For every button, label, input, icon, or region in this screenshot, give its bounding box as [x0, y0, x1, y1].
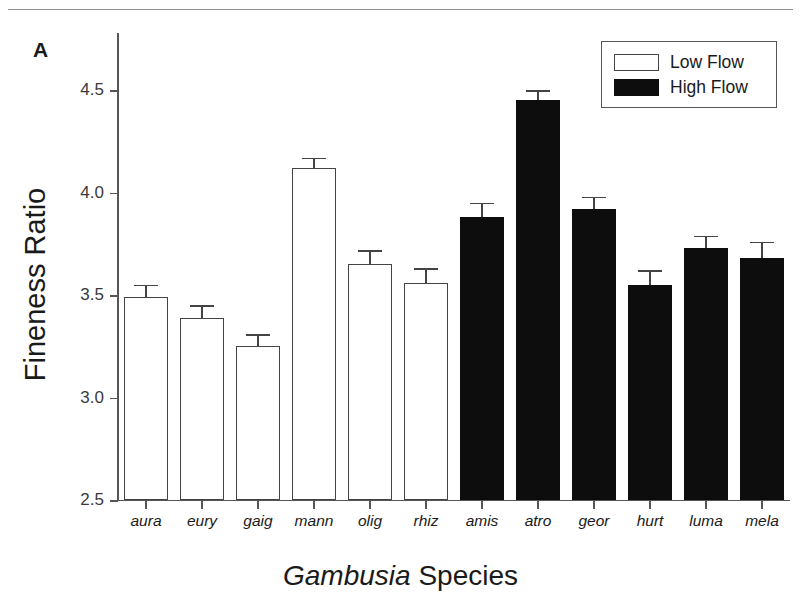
x-tick-mark [593, 500, 595, 509]
error-bar-cap-aura [134, 285, 157, 287]
y-tick-label: 4.0 [44, 183, 104, 203]
y-axis-tick-labels: 2.53.03.54.04.5 [42, 0, 104, 613]
x-tick-label-amis: amis [466, 512, 499, 530]
x-tick-mark [201, 500, 203, 509]
error-bar-cap-olig [358, 250, 381, 252]
error-bar-cap-eury [190, 305, 213, 307]
x-tick-label-gaig: gaig [243, 512, 272, 530]
x-tick-mark [537, 500, 539, 509]
x-tick-label-geor: geor [578, 512, 609, 530]
error-bar-cap-atro [526, 90, 549, 92]
bar-olig [348, 264, 393, 500]
x-tick-mark [369, 500, 371, 509]
bar-gaig [236, 346, 281, 500]
bar-mela [740, 258, 785, 500]
legend-item-high-flow: High Flow [614, 76, 748, 98]
y-tick-mark [110, 398, 118, 400]
bar-luma [684, 248, 729, 500]
bar-rhiz [404, 283, 449, 500]
error-bar-stem-aura [145, 285, 147, 297]
bar-mann [292, 168, 337, 500]
x-tick-mark [481, 500, 483, 509]
error-bar-cap-hurt [638, 270, 661, 272]
y-tick-mark [110, 90, 118, 92]
error-bar-cap-luma [694, 236, 717, 238]
error-bar-stem-amis [481, 203, 483, 217]
x-tick-label-rhiz: rhiz [414, 512, 439, 530]
bar-eury [180, 318, 225, 500]
error-bar-stem-luma [705, 236, 707, 248]
x-tick-label-mela: mela [745, 512, 779, 530]
y-tick-label: 3.0 [44, 388, 104, 408]
x-tick-label-aura: aura [130, 512, 161, 530]
legend-swatch-low-flow [614, 54, 659, 71]
error-bar-stem-eury [201, 305, 203, 317]
x-axis-title-genus: Gambusia [283, 560, 411, 591]
x-tick-label-eury: eury [187, 512, 217, 530]
legend-item-low-flow: Low Flow [614, 51, 744, 73]
error-bar-cap-mela [750, 242, 773, 244]
bar-geor [572, 209, 617, 500]
x-tick-mark [425, 500, 427, 509]
legend-label-high-flow: High Flow [670, 77, 748, 98]
x-axis-title-plain: Species [411, 560, 518, 591]
y-tick-label: 3.5 [44, 285, 104, 305]
bar-aura [124, 297, 169, 500]
x-tick-mark [145, 500, 147, 509]
error-bar-stem-gaig [257, 334, 259, 346]
x-tick-label-hurt: hurt [637, 512, 664, 530]
x-tick-mark [761, 500, 763, 509]
legend-label-low-flow: Low Flow [670, 52, 744, 73]
bar-atro [516, 100, 561, 500]
x-tick-label-olig: olig [358, 512, 382, 530]
y-tick-mark [110, 500, 118, 502]
x-tick-mark [705, 500, 707, 509]
error-bar-cap-rhiz [414, 268, 437, 270]
x-tick-mark [649, 500, 651, 509]
error-bar-stem-mela [761, 242, 763, 258]
legend-swatch-high-flow [614, 79, 659, 96]
x-tick-label-mann: mann [295, 512, 334, 530]
error-bar-stem-geor [593, 197, 595, 209]
error-bar-stem-olig [369, 250, 371, 264]
error-bar-cap-mann [302, 158, 325, 160]
bar-hurt [628, 285, 673, 500]
x-axis-title: Gambusia Species [0, 560, 801, 592]
error-bar-stem-hurt [649, 270, 651, 284]
y-tick-mark [110, 193, 118, 195]
x-tick-label-atro: atro [525, 512, 552, 530]
legend: Low Flow High Flow [601, 41, 777, 108]
x-tick-label-luma: luma [689, 512, 723, 530]
x-tick-mark [313, 500, 315, 509]
error-bar-cap-gaig [246, 334, 269, 336]
error-bar-cap-geor [582, 197, 605, 199]
figure-panel-a: A Fineness Ratio Gambusia Species 2.53.0… [0, 0, 801, 613]
y-tick-mark [110, 295, 118, 297]
x-tick-mark [257, 500, 259, 509]
y-tick-label: 2.5 [44, 490, 104, 510]
y-tick-label: 4.5 [44, 80, 104, 100]
error-bar-stem-rhiz [425, 268, 427, 282]
bar-amis [460, 217, 505, 500]
error-bar-cap-amis [470, 203, 493, 205]
